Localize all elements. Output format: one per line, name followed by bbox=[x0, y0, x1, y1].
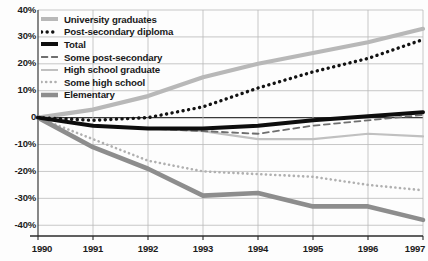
legend-swatch-total-icon bbox=[41, 38, 58, 50]
legend-item-high-school-graduate[interactable]: High school graduate bbox=[41, 63, 173, 76]
legend-label: Some high school bbox=[64, 77, 145, 88]
legend-swatch-post-secondary-diploma-icon bbox=[41, 26, 58, 38]
x-axis-tick-label: 1993 bbox=[193, 243, 213, 254]
y-axis-tick-label: 0 bbox=[2, 112, 36, 122]
legend-swatch-university-graduates-icon bbox=[41, 13, 58, 25]
y-axis-tick-label: 30% bbox=[2, 31, 36, 41]
y-axis-tick-label: 10% bbox=[2, 85, 36, 95]
x-axis-tick-label: 1997 bbox=[405, 243, 425, 254]
legend-item-university-graduates[interactable]: University graduates bbox=[41, 13, 173, 26]
legend-item-post-secondary-diploma[interactable]: Post-secondary diploma bbox=[41, 26, 173, 39]
legend-item-some-high-school[interactable]: Some high school bbox=[41, 76, 173, 89]
line-chart: 40%30%20%10%0-10%-20%-30%-40% 1990199119… bbox=[0, 0, 428, 261]
legend-item-elementary[interactable]: Elementary bbox=[41, 89, 173, 102]
x-axis-tick-label: 1995 bbox=[303, 243, 323, 254]
x-axis-tick-label: 1990 bbox=[32, 243, 52, 254]
legend-label: Some post-secondary bbox=[64, 52, 162, 63]
legend-label: Post-secondary diploma bbox=[64, 26, 173, 37]
legend-swatch-high-school-graduate-icon bbox=[41, 64, 58, 76]
legend-item-some-post-secondary[interactable]: Some post-secondary bbox=[41, 51, 173, 64]
y-axis-tick-label: -20% bbox=[2, 166, 36, 176]
legend-item-total[interactable]: Total bbox=[41, 38, 173, 51]
x-axis-tick-label: 1996 bbox=[358, 243, 378, 254]
legend-swatch-elementary-icon bbox=[41, 89, 58, 101]
y-axis-tick-label: -40% bbox=[2, 220, 36, 230]
x-axis-tick-label: 1994 bbox=[248, 243, 268, 254]
legend-label: High school graduate bbox=[64, 64, 160, 75]
legend-swatch-some-high-school-icon bbox=[41, 76, 58, 88]
y-axis-tick-label: 40% bbox=[2, 5, 36, 15]
x-axis-tick-label: 1991 bbox=[83, 243, 103, 254]
legend-label: Total bbox=[64, 39, 86, 50]
y-axis: 40%30%20%10%0-10%-20%-30%-40% bbox=[0, 0, 36, 261]
y-axis-tick-label: -10% bbox=[2, 139, 36, 149]
legend-label: University graduates bbox=[64, 14, 157, 25]
chart-legend: University graduatesPost-secondary diplo… bbox=[41, 13, 173, 101]
y-axis-tick-label: 20% bbox=[2, 58, 36, 68]
legend-label: Elementary bbox=[64, 89, 115, 100]
y-axis-tick-label: -30% bbox=[2, 193, 36, 203]
legend-swatch-some-post-secondary-icon bbox=[41, 51, 58, 63]
x-axis-tick-label: 1992 bbox=[138, 243, 158, 254]
